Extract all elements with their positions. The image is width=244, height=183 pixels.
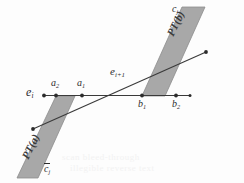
label-b1-subscript: 1 — [143, 103, 146, 110]
label-e-i-plus-1-subscript: i+1 — [115, 71, 125, 78]
label-e-i-plus-1: ei+1 — [110, 66, 125, 79]
horizontal-line-right-tip-dot — [189, 94, 192, 97]
label-a1-subscript: 1 — [82, 82, 85, 89]
scan-artifact-line-1: scan bleed-through — [62, 152, 140, 162]
label-b1: b1 — [138, 99, 146, 110]
label-b2: b2 — [172, 99, 180, 110]
label-e-i-subscript: i — [31, 91, 33, 100]
point-e-i-dot — [42, 94, 46, 98]
label-cj-bottom-subscript: j — [49, 168, 51, 175]
label-a2-subscript: 2 — [56, 82, 59, 89]
diagonal-lower-left-tip-dot — [31, 127, 35, 131]
label-cj-bottom-overline: cj — [44, 163, 50, 175]
label-a2: a2 — [51, 78, 59, 89]
point-b2-dot — [174, 94, 178, 98]
label-cj-bottom-base: c — [44, 163, 48, 174]
label-cj-bottom: cj — [44, 163, 50, 175]
diagonal-upper-right-tip-dot — [204, 50, 208, 54]
scan-artifact-line-2: illegible reverse text — [70, 163, 154, 173]
point-a2-dot — [54, 94, 58, 98]
point-b1-dot — [140, 94, 144, 98]
label-e-i: ei — [26, 86, 34, 100]
label-a1: a1 — [77, 78, 85, 89]
label-b2-subscript: 2 — [177, 103, 180, 110]
diagonal-edge-line — [33, 52, 206, 129]
point-a1-dot — [80, 94, 84, 98]
figure-canvas: ei a2 a1 ei+1 b1 b2 cj cj PT(b) PT(a) sc… — [0, 0, 244, 183]
